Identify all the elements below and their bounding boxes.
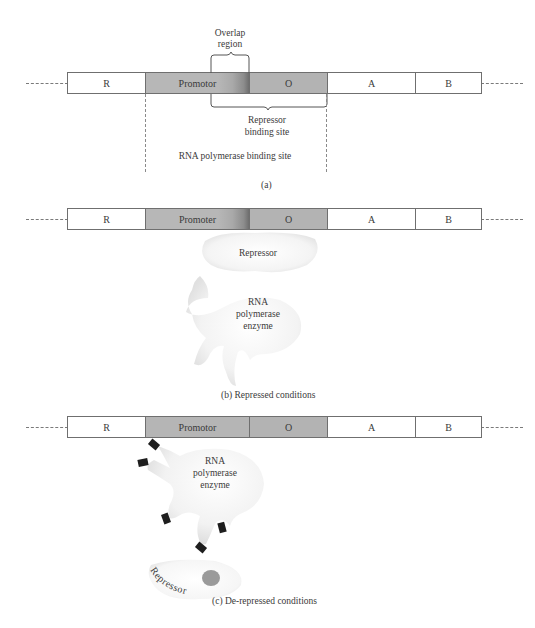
polymerase-site-left-boundary — [145, 94, 146, 172]
enzyme-line1: RNA — [228, 297, 288, 309]
operon-bar-a: R Promotor O A B — [67, 72, 482, 94]
dna-dashed-right — [481, 83, 523, 84]
gene-r: R — [68, 209, 146, 229]
gene-r: R — [68, 73, 146, 93]
operator-region: O — [250, 417, 328, 437]
overlap-bracket — [208, 52, 254, 74]
enzyme-line2: polymerase — [228, 309, 288, 321]
gene-r: R — [68, 417, 146, 437]
caption-c: (c) De-repressed conditions — [212, 596, 317, 606]
gene-a: A — [328, 73, 416, 93]
gene-a: A — [328, 417, 416, 437]
operon-bar-b: R Promoter O A B — [67, 208, 482, 230]
dna-dashed-left — [26, 83, 68, 84]
dna-dashed-left — [26, 427, 68, 428]
dna-dashed-right — [481, 219, 523, 220]
enzyme-line3: enzyme — [185, 480, 245, 492]
gene-b: B — [416, 209, 481, 229]
enzyme-line2: polymerase — [185, 468, 245, 480]
dna-dashed-left — [26, 219, 68, 220]
polymerase-site-label: RNA polymerase binding site — [160, 151, 310, 163]
repressor-label: Repressor — [228, 248, 288, 260]
gene-b: B — [416, 417, 481, 437]
operator-region: O — [250, 73, 328, 93]
promoter-region: Promotor — [146, 73, 250, 93]
caption-b: (b) Repressed conditions — [221, 390, 315, 400]
gene-b: B — [416, 73, 481, 93]
enzyme-line1: RNA — [185, 456, 245, 468]
repressor-label: Repressor — [148, 565, 188, 596]
overlap-label-line2: region — [210, 39, 250, 51]
operon-bar-c: R Promotor O A B — [67, 416, 482, 438]
svg-text:Repressor: Repressor — [148, 565, 188, 596]
promoter-region: Promotor — [146, 417, 250, 437]
repressor-binding-bracket — [208, 94, 330, 112]
repressor-site-line1: Repressor — [237, 115, 297, 127]
enzyme-line3: enzyme — [228, 321, 288, 333]
promoter-region: Promoter — [146, 209, 250, 229]
caption-a: (a) — [261, 180, 272, 190]
polymerase-site-right-boundary — [326, 94, 327, 172]
dna-dashed-right — [481, 427, 523, 428]
repressor-site-line2: binding site — [237, 127, 297, 139]
gene-a: A — [328, 209, 416, 229]
operator-region: O — [250, 209, 328, 229]
overlap-label-line1: Overlap — [210, 28, 250, 40]
